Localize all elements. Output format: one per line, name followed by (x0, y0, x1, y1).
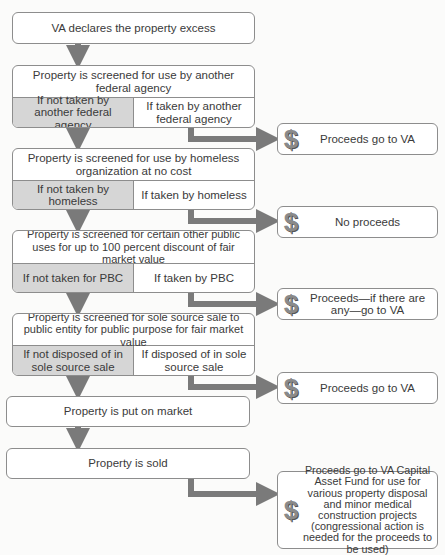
branch-taken: If taken by PBC (134, 264, 254, 292)
outcome-proceeds-to-va-sole-source: $ Proceeds go to VA (277, 372, 438, 404)
branch-taken: If taken by homeless (134, 181, 254, 209)
step-sold: Property is sold (6, 448, 250, 479)
dollar-icon: $ (280, 209, 302, 235)
branch-not-disposed: If not disposed of in sole source sale (13, 346, 134, 375)
step-title: Property is screened for use by homeless… (13, 149, 254, 180)
step-title: VA declares the property excess (13, 13, 254, 43)
dollar-icon: $ (280, 291, 302, 317)
step-federal-screening: Property is screened for use by another … (12, 65, 255, 128)
outcome-text: Proceeds go to VA (302, 382, 437, 395)
step-put-on-market: Property is put on market (6, 396, 250, 427)
outcome-proceeds-to-va: $ Proceeds go to VA (277, 123, 438, 155)
branch-taken: If taken by another federal agency (134, 98, 254, 127)
outcome-text: No proceeds (302, 216, 437, 229)
step-public-use-screening: Property is screened for certain other p… (12, 230, 255, 293)
outcome-text: Proceeds go to VA Capital Asset Fund for… (302, 465, 437, 555)
step-sole-source-screening: Property is screened for sole source sal… (12, 313, 255, 376)
branch-not-taken: If not taken for PBC (13, 264, 134, 292)
step-title: Property is screened for use by another … (13, 66, 254, 97)
step-title: Property is put on market (7, 397, 249, 426)
dollar-icon: $ (280, 375, 302, 401)
outcome-proceeds-if-any: $ Proceeds—if there are any—go to VA (277, 288, 438, 320)
dollar-icon: $ (280, 126, 302, 152)
step-title: Property is screened for sole source sal… (13, 314, 254, 345)
outcome-no-proceeds: $ No proceeds (277, 206, 438, 238)
step-homeless-screening: Property is screened for use by homeless… (12, 148, 255, 210)
step-title: Property is sold (7, 449, 249, 478)
step-declare-excess: VA declares the property excess (12, 12, 255, 44)
branch-not-taken: If not taken by another federal agency (13, 98, 134, 127)
branch-not-taken: If not taken by homeless (13, 181, 134, 209)
branch-disposed: If disposed of in sole source sale (134, 346, 254, 375)
outcome-capital-asset-fund: $ Proceeds go to VA Capital Asset Fund f… (277, 471, 438, 549)
outcome-text: Proceeds go to VA (302, 133, 437, 146)
dollar-icon: $ (280, 497, 302, 523)
outcome-text: Proceeds—if there are any—go to VA (302, 292, 437, 317)
step-title: Property is screened for certain other p… (13, 231, 254, 263)
